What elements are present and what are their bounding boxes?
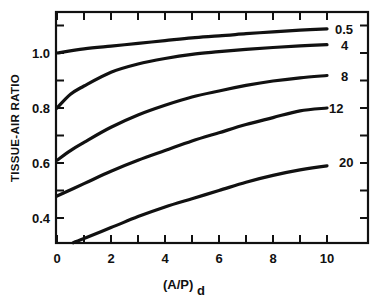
y-tick-label: 0.4 (32, 211, 51, 226)
y-tick-label: 0.6 (32, 156, 50, 171)
curve-label: 0.5 (335, 22, 353, 37)
curve-depth-0_5 (57, 29, 327, 53)
data-curves: 0.5481220 (57, 22, 353, 243)
curve-label: 12 (329, 101, 343, 116)
curve-label: 20 (339, 155, 353, 170)
y-tick-label: 1.0 (32, 46, 50, 61)
curve-label: 4 (341, 38, 349, 53)
x-tick-label: 6 (215, 251, 222, 266)
curve-depth-12 (57, 108, 327, 196)
curve-depth-20 (73, 166, 327, 243)
tissue-air-ratio-chart: 0.5481220 02468100.40.60.81.0 TISSUE-AIR… (0, 0, 380, 304)
y-tick-label: 0.8 (32, 101, 50, 116)
curve-label: 8 (341, 69, 348, 84)
y-axis-title: TISSUE-AIR RATIO (9, 74, 21, 182)
x-tick-label: 2 (107, 251, 114, 266)
x-axis-title-main: (A/P) (163, 277, 193, 292)
x-tick-label: 8 (269, 251, 276, 266)
x-axis-title: (A/P) d (163, 277, 205, 298)
x-axis-title-subscript: d (197, 283, 205, 298)
x-tick-label: 4 (161, 251, 169, 266)
x-tick-label: 0 (53, 251, 60, 266)
x-tick-label: 10 (320, 251, 334, 266)
curve-depth-8 (57, 76, 327, 161)
